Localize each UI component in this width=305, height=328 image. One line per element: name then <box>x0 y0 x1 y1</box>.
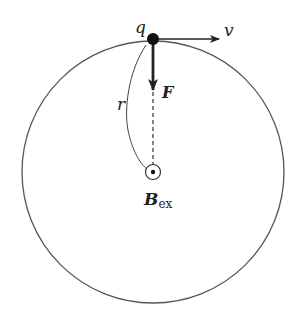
circular-motion-diagram: q v F r Bex <box>0 0 305 328</box>
charge-label: q <box>135 17 146 37</box>
radius-label: r <box>117 94 126 114</box>
field-out-of-page-icon <box>146 165 161 180</box>
radius-dimension-arc <box>127 45 147 169</box>
charge-dot <box>147 33 159 45</box>
field-label: Bex <box>143 189 172 211</box>
diagram-canvas: q v F r Bex <box>0 0 305 328</box>
field-subscript: ex <box>158 197 172 211</box>
velocity-label: v <box>224 20 234 40</box>
force-label: F <box>161 83 175 102</box>
